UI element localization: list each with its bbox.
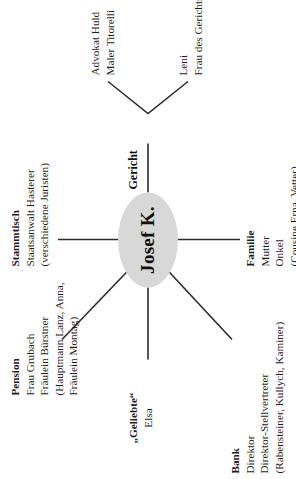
node-familie-member: Mutter bbox=[258, 166, 273, 266]
branch-member: Frau des Gerichtsdieners bbox=[191, 0, 206, 75]
node-pension-member: Fräulein Montag) bbox=[66, 282, 81, 395]
connector-gericht-fork bbox=[108, 81, 188, 113]
node-bank-title: Bank bbox=[228, 321, 243, 473]
node-bank-member: Direktor-Stellvertreter bbox=[257, 321, 272, 473]
branch-leni-frau[interactable]: Leni Frau des Gerichtsdieners bbox=[176, 0, 205, 75]
node-geliebte[interactable]: „Geliebte“ Elsa bbox=[126, 392, 155, 443]
node-stammtisch-title: Stammtisch bbox=[8, 163, 23, 266]
node-stammtisch-member: Staatsanwalt Hasterer bbox=[23, 163, 38, 266]
node-bank-member: Direktor bbox=[243, 321, 258, 473]
node-geliebte-member: Elsa bbox=[141, 392, 156, 443]
node-familie[interactable]: Familie Mutter Onkel (Cousine Erna, Vett… bbox=[243, 166, 296, 266]
node-gericht-title[interactable]: Gericht bbox=[126, 150, 141, 189]
node-stammtisch[interactable]: Stammtisch Staatsanwalt Hasterer (versch… bbox=[8, 163, 52, 266]
node-pension-title: Pension bbox=[8, 282, 23, 395]
branch-member: Leni bbox=[176, 0, 191, 75]
node-pension[interactable]: Pension Frau Grubach Fräulein Bürstner (… bbox=[8, 282, 81, 395]
diagram-stage: Josef K. Pension Frau Grubach Fräulein B… bbox=[0, 0, 296, 479]
node-familie-member: Onkel bbox=[272, 166, 287, 266]
branch-member: Maler Titorelli bbox=[103, 9, 118, 75]
hub-label: Josef K. bbox=[137, 206, 159, 274]
connector-bank bbox=[165, 267, 232, 339]
node-bank-member: (Rabensteiner, Kullych, Kaminer) bbox=[272, 321, 287, 473]
node-geliebte-title: „Geliebte“ bbox=[126, 392, 141, 443]
node-stammtisch-member: (verschiedene Juristen) bbox=[37, 163, 52, 266]
node-pension-member: (Hauptmann Lanz, Anna, bbox=[52, 282, 67, 395]
hub-josef-k[interactable]: Josef K. bbox=[118, 192, 178, 287]
node-pension-member: Frau Grubach bbox=[23, 282, 38, 395]
character-relationship-diagram: Josef K. Pension Frau Grubach Fräulein B… bbox=[0, 0, 296, 479]
branch-member: Advokat Huld bbox=[88, 9, 103, 75]
node-bank[interactable]: Bank Direktor Direktor-Stellvertreter (R… bbox=[228, 321, 286, 473]
edge-caption-fragment: · · · bbox=[291, 0, 296, 479]
node-familie-title: Familie bbox=[243, 166, 258, 266]
branch-advokat-maler[interactable]: Advokat Huld Maler Titorelli bbox=[88, 9, 117, 75]
node-pension-member: Fräulein Bürstner bbox=[37, 282, 52, 395]
